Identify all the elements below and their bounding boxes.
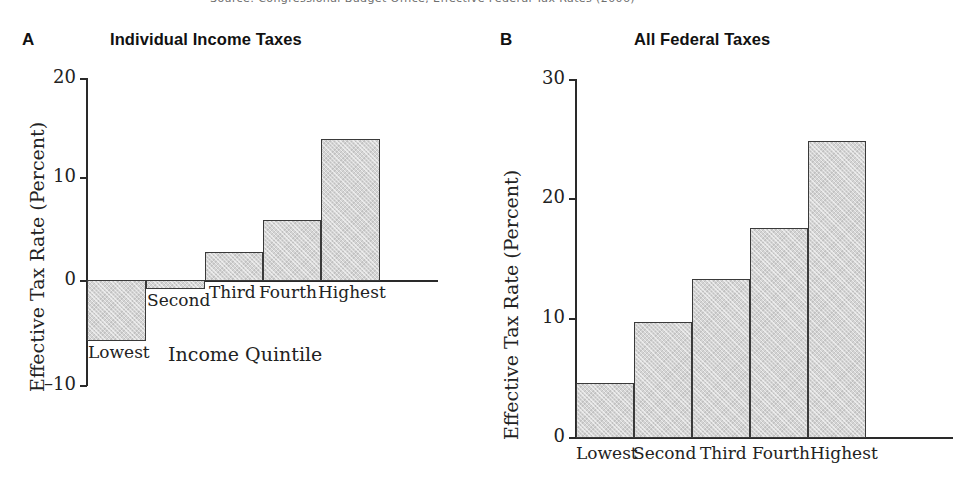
panel-a-ytick-label-neg10: –10 [12,373,76,394]
panel-b-ytick-label-20: 20 [509,186,565,207]
panel-a-title: Individual Income Taxes [110,30,302,49]
panel-b-tick-0 [569,437,576,439]
panel-a-bar-second [146,280,205,289]
panel-a-tick-20 [80,78,87,80]
panel-a-tick-neg10 [80,385,87,387]
panel-a-bar-lowest [87,280,146,341]
panel-b-title: All Federal Taxes [634,30,770,49]
panel-b-bar-fourth [750,228,808,438]
panel-b-bar-third [692,279,750,438]
panel-b-y-axis-label: Effective Tax Rate (Percent) [500,170,522,440]
panel-a-cat-label-third: Third [209,282,256,302]
panel-a-ytick-label-10: 10 [20,165,76,186]
panel-a-tick-10 [80,177,87,179]
panel-b-cat-label-fourth: Fourth [752,443,810,463]
panel-b-ytick-label-0: 0 [509,425,565,446]
panel-a-y-axis-label: Effective Tax Rate (Percent) [26,122,48,392]
panel-b-ytick-label-10: 10 [509,306,565,327]
panel-b-tick-30 [569,79,576,81]
panel-a-cat-label-lowest: Lowest [88,342,150,362]
panel-b-ytick-label-30: 30 [509,67,565,88]
figure-root: Source: Congressional Budget Office, Eff… [0,0,955,486]
panel-b-bar-lowest [576,383,634,438]
panel-b-cat-label-lowest: Lowest [576,443,638,463]
panel-b-bar-second [634,322,692,438]
panel-a-cat-label-fourth: Fourth [259,282,317,302]
panel-a-tick-0 [80,280,87,282]
panel-a-letter: A [22,30,34,50]
panel-a-cat-label-highest: Highest [318,282,386,302]
panel-b-bar-highest [808,141,866,438]
panel-a-x-axis-title: Income Quintile [168,343,322,365]
panel-a-bar-third [205,252,263,281]
panel-a-bar-highest [321,139,380,281]
panel-a-ytick-label-20: 20 [20,66,76,87]
panel-a-bar-fourth [263,220,321,281]
panel-b-cat-label-highest: Highest [810,443,878,463]
panel-b: B All Federal Taxes Effective Tax Rate (… [478,0,955,486]
panel-b-tick-10 [569,318,576,320]
panel-a-ytick-label-0: 0 [20,268,76,289]
panel-b-tick-20 [569,198,576,200]
panel-b-cat-label-second: Second [633,443,696,463]
panel-a: A Individual Income Taxes Effective Tax … [0,0,478,486]
panel-b-letter: B [500,30,512,50]
panel-b-cat-label-third: Third [700,443,747,463]
panel-a-cat-label-second: Second [147,290,210,310]
